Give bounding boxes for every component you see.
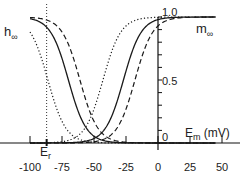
y-tick-1.0: 1.0 bbox=[162, 6, 177, 18]
y-tick-0.5: 0.5 bbox=[162, 75, 177, 87]
x-tick-label: -75 bbox=[54, 161, 70, 173]
x-tick-label: 25 bbox=[184, 161, 196, 173]
curve-activation-solid bbox=[30, 17, 216, 143]
reversal-potential-label: Er bbox=[40, 145, 51, 161]
x-tick-labels: -100-75-50-2502550 bbox=[19, 161, 228, 173]
y-tick-0: 0 bbox=[162, 131, 168, 143]
x-tick-label: 0 bbox=[155, 161, 161, 173]
x-tick-label: -50 bbox=[86, 161, 102, 173]
curves-group bbox=[30, 4, 216, 143]
m-inf-label: m∞ bbox=[196, 21, 213, 39]
x-axis-label: Em (mV) bbox=[185, 126, 230, 142]
x-tick-label: -100 bbox=[19, 161, 41, 173]
x-tick-label: 50 bbox=[216, 161, 228, 173]
x-tick-label: -25 bbox=[118, 161, 134, 173]
h-inf-label: h∞ bbox=[4, 24, 18, 42]
steady-state-gating-chart: h∞ m∞ 1.0 0.5 0 Em (mV) Er -100-75-50-25… bbox=[0, 0, 240, 178]
